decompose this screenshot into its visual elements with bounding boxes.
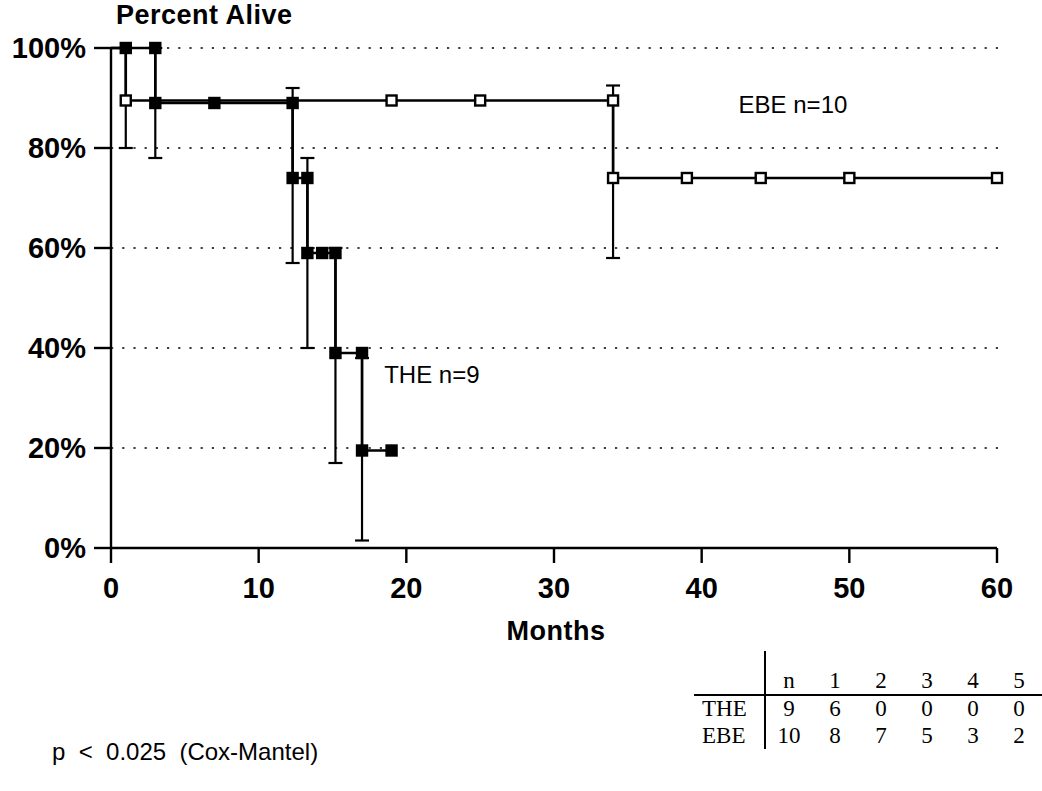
- censor-marker-open: [608, 96, 618, 106]
- censor-marker-open: [844, 173, 854, 183]
- risk-table-cell: 10: [765, 723, 812, 749]
- censor-marker-filled: [302, 173, 312, 183]
- censor-marker-filled: [357, 445, 367, 455]
- censor-marker-filled: [121, 43, 131, 53]
- risk-table-column-header: 4: [950, 651, 996, 695]
- risk-table-column-header: 3: [904, 651, 950, 695]
- series-label-the: THE n=9: [384, 361, 479, 388]
- censor-marker-filled: [150, 43, 160, 53]
- risk-table-column-header: 5: [996, 651, 1042, 695]
- risk-table-cell: 2: [996, 723, 1042, 749]
- censor-marker-filled: [330, 348, 340, 358]
- series-the: [111, 43, 397, 541]
- censor-marker-filled: [209, 98, 219, 108]
- axes-group: [94, 48, 997, 563]
- series-group: [111, 43, 1002, 541]
- chart-title: Percent Alive: [116, 0, 293, 30]
- series-ebe: [111, 48, 1002, 258]
- censor-marker-filled: [330, 248, 340, 258]
- risk-table-cell: 0: [950, 695, 996, 722]
- censor-marker-open: [682, 173, 692, 183]
- censor-marker-filled: [357, 348, 367, 358]
- y-axis-tick-label: 60%: [28, 232, 86, 264]
- risk-table-row-label: EBE: [694, 723, 765, 749]
- risk-table-column-header: 1: [812, 651, 858, 695]
- series-label-ebe: EBE n=10: [739, 91, 848, 118]
- censor-marker-filled: [287, 173, 297, 183]
- censor-marker-open: [992, 173, 1002, 183]
- y-axis-tick-label: 100%: [12, 32, 86, 64]
- risk-table-cell: 0: [996, 695, 1042, 722]
- risk-table-column-header: n: [765, 651, 812, 695]
- risk-table-row-label: THE: [694, 695, 765, 722]
- risk-table-cell: 5: [904, 723, 950, 749]
- x-axis-title: Months: [507, 616, 606, 646]
- y-axis-tick-label: 20%: [28, 432, 86, 464]
- y-axis-tick-label: 0%: [44, 532, 86, 564]
- risk-table-cell: 7: [858, 723, 904, 749]
- p-value-annotation: p < 0.025 (Cox-Mantel): [52, 738, 318, 766]
- risk-table-cell: 9: [765, 695, 812, 722]
- risk-table-cell: 0: [904, 695, 950, 722]
- y-axis-tick-label: 80%: [28, 132, 86, 164]
- censor-marker-filled: [150, 98, 160, 108]
- x-axis-tick-label: 50: [833, 572, 865, 604]
- censor-marker-filled: [287, 98, 297, 108]
- censor-marker-filled: [317, 248, 327, 258]
- x-axis-tick-label: 60: [981, 572, 1013, 604]
- censor-marker-open: [608, 173, 618, 183]
- x-axis-tick-label: 20: [390, 572, 422, 604]
- step-line: [111, 48, 997, 178]
- risk-table-header-row: n12345: [694, 651, 1042, 695]
- risk-table-row: THE960000: [694, 695, 1042, 722]
- risk-table-cell: 3: [950, 723, 996, 749]
- risk-table-column-header: 2: [858, 651, 904, 695]
- risk-table-row: EBE1087532: [694, 723, 1042, 749]
- error-bar: [606, 86, 620, 259]
- x-axis-tick-label: 10: [243, 572, 275, 604]
- gridlines-group: [111, 48, 999, 448]
- censor-marker-open: [756, 173, 766, 183]
- censor-marker-open: [121, 96, 131, 106]
- risk-table-cell: 0: [858, 695, 904, 722]
- risk-table-corner-cell: [694, 651, 765, 695]
- censor-marker-filled: [302, 248, 312, 258]
- censor-marker-filled: [386, 445, 396, 455]
- x-axis-tick-label: 40: [686, 572, 718, 604]
- y-axis-tick-label: 40%: [28, 332, 86, 364]
- censor-marker-open: [475, 96, 485, 106]
- x-axis-tick-label: 0: [103, 572, 119, 604]
- x-axis-tick-label: 30: [538, 572, 570, 604]
- numbers-at-risk-table: n12345THE960000EBE1087532: [694, 651, 1042, 749]
- censor-marker-open: [387, 96, 397, 106]
- risk-table-cell: 6: [812, 695, 858, 722]
- risk-table-cell: 8: [812, 723, 858, 749]
